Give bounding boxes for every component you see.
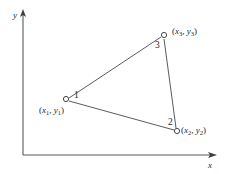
vertex-coordinate-label-2: (x2, y2)	[181, 126, 206, 135]
y-axis-label: y	[13, 11, 17, 20]
paren-close: )	[61, 105, 64, 115]
vertex-marker-2	[174, 128, 179, 133]
triangle-edge-3-2	[164, 39, 176, 128]
triangle-edge-2-1	[69, 101, 174, 130]
coord-y-sub-3: 3	[191, 30, 194, 37]
coord-y-sub-1: 1	[58, 109, 61, 116]
x-axis-label: x	[208, 161, 212, 170]
triangle-edge-1-3	[69, 37, 161, 98]
vertex-number-1: 1	[74, 91, 79, 101]
vertex-marker-3	[161, 32, 166, 37]
coord-x-sub-3: 3	[179, 30, 182, 37]
coord-x-sub-2: 2	[188, 129, 191, 136]
coord-x-sub-1: 1	[46, 109, 49, 116]
triangle-diagram-figure: y x 1 2 3 (x1, y1) (x2, y2) (x3, y3)	[0, 0, 236, 174]
diagram-canvas	[0, 0, 236, 174]
paren-close: )	[194, 26, 197, 36]
paren-close: )	[203, 125, 206, 135]
vertex-marker-1	[63, 96, 68, 101]
vertex-coordinate-label-1: (x1, y1)	[39, 106, 64, 115]
coord-y-sub-2: 2	[200, 129, 203, 136]
vertex-number-2: 2	[168, 118, 173, 128]
vertex-number-3: 3	[155, 41, 160, 51]
vertex-coordinate-label-3: (x3, y3)	[172, 27, 197, 36]
